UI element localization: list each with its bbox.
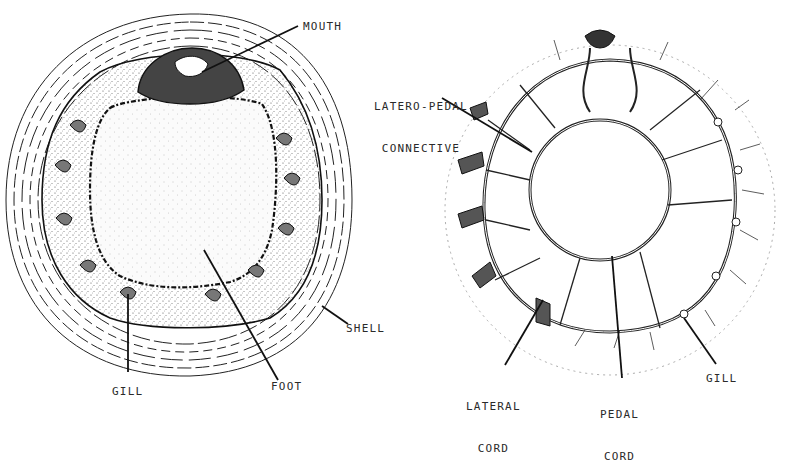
- label-gill-left: GILL: [112, 385, 143, 399]
- label-foot: FOOT: [271, 380, 302, 394]
- lateral-cord: [484, 60, 735, 332]
- label-lateral-cord: LATERAL CORD: [466, 372, 521, 464]
- label-pedal-cord-line2: CORD: [600, 450, 639, 464]
- label-shell: SHELL: [346, 322, 385, 336]
- label-mouth: MOUTH: [303, 20, 342, 34]
- label-latero-pedal-line2: CONNECTIVE: [374, 142, 468, 156]
- outline-dotted: [445, 45, 775, 375]
- label-pedal-cord: PEDAL CORD: [600, 380, 639, 464]
- right-leader-lines: [442, 98, 716, 378]
- nerve-branches: [554, 40, 764, 350]
- label-lateral-cord-line2: CORD: [466, 442, 521, 456]
- label-pedal-cord-line1: PEDAL: [600, 408, 639, 422]
- label-latero-pedal-connective: LATERO-PEDAL CONNECTIVE: [374, 72, 468, 170]
- label-lateral-cord-line1: LATERAL: [466, 400, 521, 414]
- pedal-cord: [530, 120, 670, 260]
- right-specimen: [442, 30, 775, 378]
- left-specimen: [6, 14, 352, 380]
- label-latero-pedal-line1: LATERO-PEDAL: [374, 100, 468, 114]
- label-gill-right: GILL: [706, 372, 737, 386]
